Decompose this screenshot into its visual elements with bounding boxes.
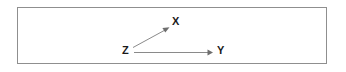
edge-z-to-y-arrowhead (208, 50, 214, 56)
edge-z-to-x (133, 27, 170, 47)
edge-z-to-x-line (133, 30, 166, 48)
edge-z-to-x-arrowhead (162, 27, 169, 32)
node-label-x: X (172, 15, 180, 27)
node-label-z: Z (122, 44, 129, 56)
diagram-root: Z X Y (0, 0, 346, 72)
node-label-y: Y (217, 44, 225, 56)
edge-z-to-y (134, 50, 213, 56)
graph-canvas: Z X Y (0, 0, 346, 72)
